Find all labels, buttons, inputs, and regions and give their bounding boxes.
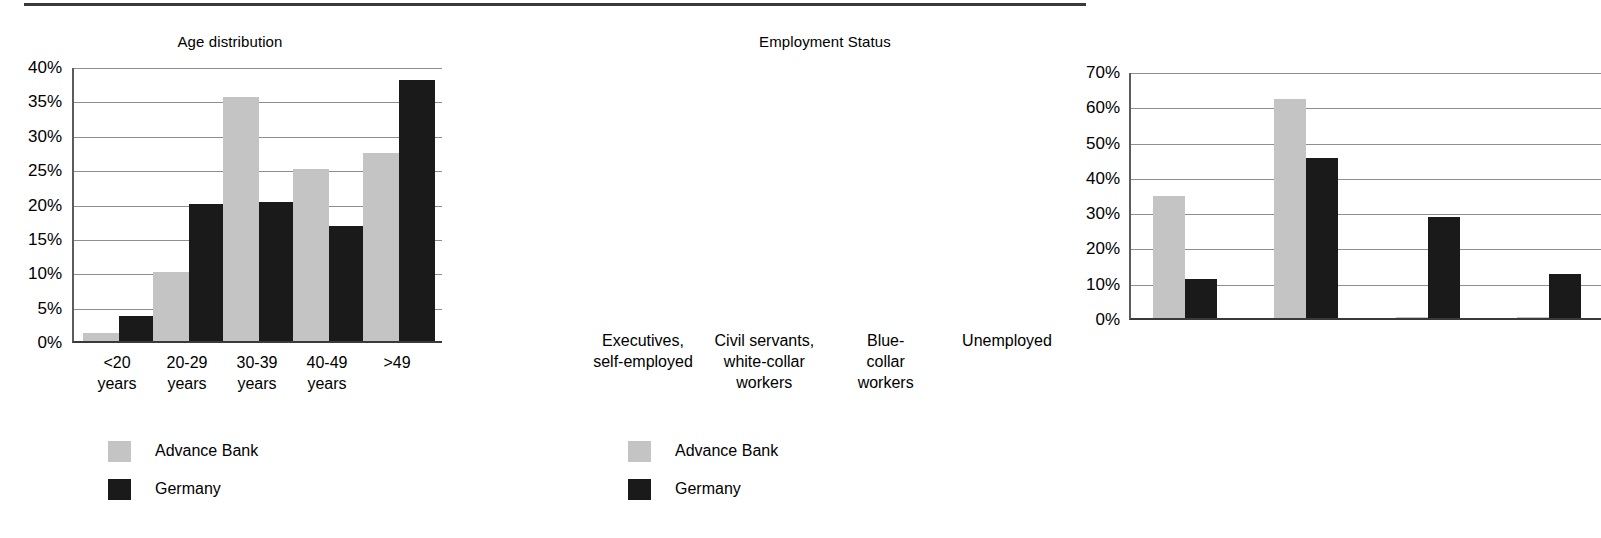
bar-advance-bank xyxy=(223,97,259,341)
x-axis-category-label: >49 xyxy=(327,352,467,373)
y-axis-tick-label: 0% xyxy=(1048,311,1120,328)
gridline xyxy=(1131,179,1601,180)
legend-employment-status: Advance Bank Germany xyxy=(628,432,778,508)
y-axis-tick-label: 20% xyxy=(1048,240,1120,257)
legend-item-advance-bank: Advance Bank xyxy=(628,432,778,470)
x-axis-category-label: Executives, self-employed xyxy=(573,330,713,372)
gridline xyxy=(1131,108,1601,109)
bar-germany xyxy=(1549,274,1581,318)
bar-germany xyxy=(1306,158,1338,318)
plot-area-age xyxy=(72,68,442,343)
bar-germany xyxy=(1185,279,1217,318)
y-axis-tick-label: 70% xyxy=(1048,64,1120,81)
y-axis-tick-label: 10% xyxy=(1048,276,1120,293)
legend-swatch-germany-icon xyxy=(108,479,131,500)
gridline xyxy=(1131,144,1601,145)
legend-item-germany: Germany xyxy=(108,470,258,508)
bar-advance-bank xyxy=(1517,317,1549,318)
gridline xyxy=(74,68,442,69)
y-axis-tick-label: 25% xyxy=(0,162,62,179)
bar-germany xyxy=(189,204,225,342)
legend-item-germany: Germany xyxy=(628,470,778,508)
bar-germany xyxy=(329,226,365,342)
bar-advance-bank xyxy=(293,169,329,341)
bar-advance-bank xyxy=(1396,317,1428,318)
y-axis-tick-label: 15% xyxy=(0,231,62,248)
legend-swatch-germany-icon xyxy=(628,479,651,500)
y-axis-tick-label: 40% xyxy=(1048,170,1120,187)
x-axis-category-label: Civil servants, white-collar workers xyxy=(694,330,834,393)
legend-label-advance-bank: Advance Bank xyxy=(675,442,778,460)
y-axis-tick-label: 20% xyxy=(0,197,62,214)
legend-item-advance-bank: Advance Bank xyxy=(108,432,258,470)
x-axis-category-label: Unemployed xyxy=(937,330,1077,351)
bar-advance-bank xyxy=(1274,99,1306,318)
y-axis-tick-label: 30% xyxy=(0,128,62,145)
y-axis-tick-label: 0% xyxy=(0,334,62,351)
legend-label-germany: Germany xyxy=(155,480,221,498)
bar-germany xyxy=(119,316,155,341)
bar-advance-bank xyxy=(363,153,399,341)
gridline xyxy=(1131,249,1601,250)
bar-germany xyxy=(259,202,295,341)
y-axis-tick-label: 5% xyxy=(0,300,62,317)
bar-advance-bank xyxy=(83,333,119,341)
y-axis-tick-label: 35% xyxy=(0,93,62,110)
bar-germany xyxy=(1428,217,1460,318)
y-axis-tick-label: 40% xyxy=(0,59,62,76)
bar-advance-bank xyxy=(153,272,189,341)
chart-title-employment: Employment Status xyxy=(540,33,1110,50)
x-axis-category-label: Blue- collar workers xyxy=(816,330,956,393)
plot-area-employment xyxy=(1129,73,1601,320)
y-axis-tick-label: 50% xyxy=(1048,135,1120,152)
legend-label-advance-bank: Advance Bank xyxy=(155,442,258,460)
y-axis-tick-label: 60% xyxy=(1048,99,1120,116)
y-axis-tick-label: 30% xyxy=(1048,205,1120,222)
legend-age-distribution: Advance Bank Germany xyxy=(108,432,258,508)
legend-swatch-advance-bank-icon xyxy=(628,441,651,462)
legend-swatch-advance-bank-icon xyxy=(108,441,131,462)
y-axis-tick-label: 10% xyxy=(0,265,62,282)
legend-label-germany: Germany xyxy=(675,480,741,498)
gridline xyxy=(1131,214,1601,215)
top-divider-rule xyxy=(24,3,1086,6)
gridline xyxy=(1131,73,1601,74)
chart-title-age: Age distribution xyxy=(0,33,460,50)
bar-germany xyxy=(399,80,435,341)
bar-advance-bank xyxy=(1153,196,1185,318)
